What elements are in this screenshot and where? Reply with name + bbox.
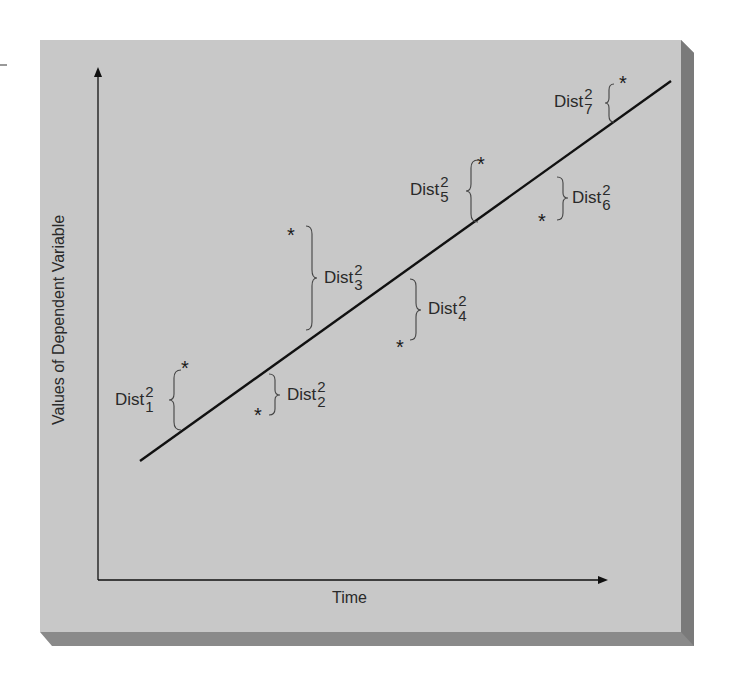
data-point-3: * [287, 225, 295, 245]
data-point-4: * [396, 337, 404, 357]
diagram-canvas [0, 0, 734, 686]
data-point-1: * [181, 358, 189, 378]
dist-label-1: Dist21 [115, 384, 154, 414]
data-point-5: * [477, 154, 485, 174]
dist-label-4: Dist24 [428, 293, 467, 323]
dist-label-5: Dist25 [410, 174, 449, 204]
y-axis-label: Values of Dependent Variable [50, 215, 68, 425]
dist-label-7: Dist27 [554, 86, 593, 116]
x-axis-label: Time [332, 590, 367, 606]
dist-label-2: Dist22 [287, 379, 326, 409]
panel-face [40, 40, 681, 632]
data-point-6: * [538, 211, 546, 231]
dist-label-3: Dist23 [324, 262, 363, 292]
dist-label-6: Dist26 [572, 182, 611, 212]
data-point-2: * [254, 405, 262, 425]
panel-shadow-right [681, 40, 694, 646]
diagram-figure: * * * * * * * Dist21 Dist22 Dist23 Dist2… [0, 0, 734, 686]
data-point-7: * [619, 73, 627, 93]
